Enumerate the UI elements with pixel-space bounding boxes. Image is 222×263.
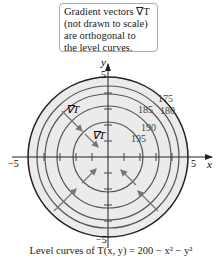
level-curve-plot: y x 5 −5 −5 5 175 180 185 190 195 ∇T ∇T (0, 0, 222, 263)
y-max-tick-label: 5 (101, 69, 106, 80)
x-axis-label: x (206, 158, 212, 170)
level-label-190: 190 (141, 122, 156, 133)
y-min-tick-label: −5 (96, 234, 107, 245)
level-label-175: 175 (158, 93, 173, 104)
level-label-195: 195 (131, 133, 146, 144)
x-max-tick-label: 5 (191, 158, 196, 169)
gradient-label-inner: ∇T (92, 129, 106, 141)
x-min-tick-label: −5 (8, 158, 19, 169)
caption: Level curves of T(x, y) = 200 − x² − y² (0, 245, 222, 256)
gradient-label-outer: ∇T (66, 103, 80, 115)
y-axis-label: y (100, 56, 106, 68)
level-label-180: 180 (160, 105, 175, 116)
level-label-185: 185 (138, 104, 153, 115)
